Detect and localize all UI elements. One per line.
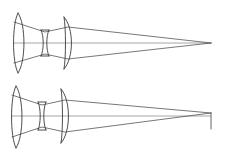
optical-diagram-canvas [0,0,226,159]
optical-diagram-figure [0,0,226,159]
figure-background [0,0,226,159]
